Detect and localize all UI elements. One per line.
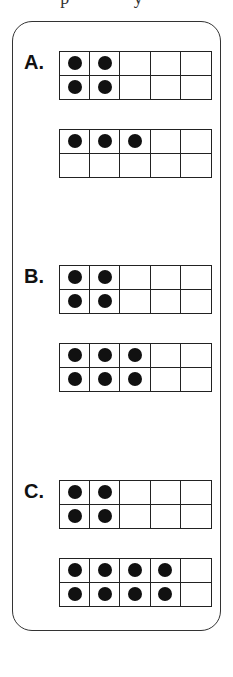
counter-dot-icon: [128, 587, 142, 601]
ten-frame-cell: [120, 505, 150, 529]
ten-frame-cell: [181, 481, 211, 505]
ten-frame-cell: [120, 583, 150, 607]
ten-frame-cell: [60, 52, 90, 76]
counter-dot-icon: [98, 509, 112, 523]
problem-b-label: B.: [24, 266, 44, 286]
counter-dot-icon: [98, 134, 112, 148]
ten-frame-cell: [60, 559, 90, 583]
counter-dot-icon: [68, 80, 82, 94]
counter-dot-icon: [128, 348, 142, 362]
counter-dot-icon: [68, 270, 82, 284]
ten-frame-cell: [151, 76, 181, 100]
ten-frame-cell: [151, 154, 181, 178]
counter-dot-icon: [128, 134, 142, 148]
counter-dot-icon: [98, 80, 112, 94]
counter-dot-icon: [98, 270, 112, 284]
ten-frame-cell: [151, 583, 181, 607]
ten-frame-cell: [120, 266, 150, 290]
ten-frame: [59, 480, 212, 529]
ten-frame-cell: [151, 559, 181, 583]
ten-frame-cell: [90, 130, 120, 154]
problem-c-label: C.: [24, 481, 44, 501]
ten-frame-cell: [60, 154, 90, 178]
ten-frame-cell: [90, 154, 120, 178]
ten-frame-cell: [60, 290, 90, 314]
ten-frame-cell: [181, 583, 211, 607]
ten-frame-cell: [181, 505, 211, 529]
ten-frame-cell: [151, 266, 181, 290]
ten-frame-cell: [60, 368, 90, 392]
ten-frame-cell: [60, 76, 90, 100]
ten-frame-cell: [181, 344, 211, 368]
ten-frame-cell: [151, 368, 181, 392]
counter-dot-icon: [128, 563, 142, 577]
counter-dot-icon: [98, 587, 112, 601]
ten-frame: [59, 51, 212, 100]
ten-frame-cell: [60, 344, 90, 368]
ten-frame-cell: [181, 290, 211, 314]
ten-frame-cell: [120, 368, 150, 392]
counter-dot-icon: [98, 294, 112, 308]
ten-frame-cell: [120, 76, 150, 100]
ten-frame-cell: [151, 344, 181, 368]
ten-frame-cell: [120, 52, 150, 76]
ten-frame-cell: [90, 344, 120, 368]
ten-frame-cell: [60, 481, 90, 505]
ten-frame-cell: [90, 52, 120, 76]
counter-dot-icon: [128, 372, 142, 386]
counter-dot-icon: [98, 56, 112, 70]
problem-a-label: A.: [24, 52, 44, 72]
ten-frame: [59, 265, 212, 314]
ten-frame: [59, 129, 212, 178]
ten-frame-cell: [151, 52, 181, 76]
ten-frame-cell: [181, 130, 211, 154]
counter-dot-icon: [68, 587, 82, 601]
counter-dot-icon: [68, 563, 82, 577]
ten-frame-cell: [151, 481, 181, 505]
counter-dot-icon: [98, 485, 112, 499]
counter-dot-icon: [98, 348, 112, 362]
ten-frame-cell: [90, 559, 120, 583]
ten-frame-cell: [90, 76, 120, 100]
counter-dot-icon: [68, 348, 82, 362]
counter-dot-icon: [98, 372, 112, 386]
counter-dot-icon: [98, 563, 112, 577]
ten-frame-cell: [120, 344, 150, 368]
ten-frame-cell: [181, 266, 211, 290]
ten-frame-cell: [120, 559, 150, 583]
ten-frame-cell: [60, 505, 90, 529]
counter-dot-icon: [158, 587, 172, 601]
ten-frame-cell: [60, 266, 90, 290]
ten-frame-cell: [60, 583, 90, 607]
ten-frame-cell: [151, 130, 181, 154]
ten-frame-cell: [120, 481, 150, 505]
ten-frame-cell: [181, 76, 211, 100]
ten-frame-cell: [90, 505, 120, 529]
counter-dot-icon: [68, 372, 82, 386]
ten-frame-cell: [181, 52, 211, 76]
ten-frame-cell: [90, 266, 120, 290]
counter-dot-icon: [68, 134, 82, 148]
ten-frame-cell: [90, 583, 120, 607]
counter-dot-icon: [68, 294, 82, 308]
ten-frame-cell: [90, 290, 120, 314]
ten-frame-cell: [120, 130, 150, 154]
worksheet-panel: [12, 21, 221, 631]
counter-dot-icon: [68, 509, 82, 523]
ten-frame-cell: [181, 368, 211, 392]
ten-frame-cell: [90, 481, 120, 505]
cropped-header-text: p y: [0, 0, 233, 8]
ten-frame-cell: [120, 154, 150, 178]
ten-frame-cell: [60, 130, 90, 154]
counter-dot-icon: [68, 485, 82, 499]
ten-frame-cell: [151, 505, 181, 529]
counter-dot-icon: [68, 56, 82, 70]
ten-frame-cell: [90, 368, 120, 392]
ten-frame-cell: [151, 290, 181, 314]
ten-frame-cell: [120, 290, 150, 314]
ten-frame-cell: [181, 559, 211, 583]
ten-frame: [59, 558, 212, 607]
ten-frame-cell: [181, 154, 211, 178]
ten-frame: [59, 343, 212, 392]
counter-dot-icon: [158, 563, 172, 577]
